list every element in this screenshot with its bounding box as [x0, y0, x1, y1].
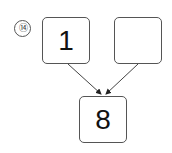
arrow-right — [106, 64, 138, 94]
whole-box: 8 — [79, 96, 127, 143]
left-part-box: 1 — [42, 17, 90, 64]
arrow-left — [68, 64, 101, 94]
right-part-box-empty[interactable] — [114, 17, 162, 64]
